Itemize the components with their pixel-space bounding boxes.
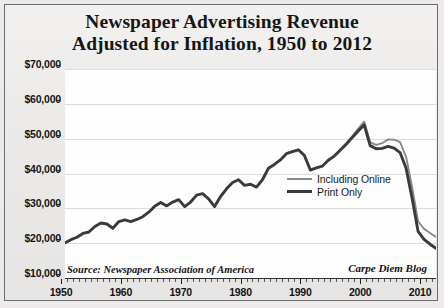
x-tick-minor bbox=[97, 279, 98, 282]
x-tick-minor bbox=[73, 279, 74, 282]
x-tick-minor bbox=[372, 279, 373, 282]
x-tick-minor bbox=[187, 279, 188, 282]
x-tick-minor bbox=[157, 279, 158, 282]
x-tick-minor bbox=[258, 279, 259, 282]
x-tick-minor bbox=[85, 279, 86, 282]
x-tick-minor bbox=[354, 279, 355, 282]
x-tick-minor bbox=[414, 279, 415, 282]
title-line-2: Adjusted for Inflation, 1950 to 2012 bbox=[5, 33, 439, 55]
x-tick-minor bbox=[67, 279, 68, 282]
x-tick-major bbox=[420, 279, 421, 284]
x-tick-major bbox=[181, 279, 182, 284]
page-title: Newspaper Advertising Revenue Adjusted f… bbox=[5, 11, 439, 55]
x-tick-label: 2000 bbox=[337, 286, 383, 298]
x-tick-minor bbox=[318, 279, 319, 282]
x-tick-minor bbox=[175, 279, 176, 282]
credit-note: Carpe Diem Blog bbox=[348, 262, 427, 274]
x-tick-minor bbox=[79, 279, 80, 282]
x-tick-minor bbox=[163, 279, 164, 282]
legend-swatch-print-only bbox=[287, 190, 312, 194]
legend-item-including-online: Including Online bbox=[287, 172, 391, 185]
legend: Including Online Print Only bbox=[287, 172, 391, 198]
title-line-1: Newspaper Advertising Revenue bbox=[5, 11, 439, 33]
legend-swatch-including-online bbox=[287, 178, 312, 180]
x-tick-minor bbox=[324, 279, 325, 282]
x-tick-minor bbox=[127, 279, 128, 282]
legend-label-print-only: Print Only bbox=[317, 186, 362, 198]
x-tick-label: 1950 bbox=[38, 286, 84, 298]
x-tick-minor bbox=[151, 279, 152, 282]
x-tick-minor bbox=[199, 279, 200, 282]
x-tick-major bbox=[61, 279, 62, 284]
y-tick-label: $70,000 bbox=[5, 58, 61, 70]
y-tick-mark bbox=[56, 135, 61, 136]
x-tick-major bbox=[121, 279, 122, 284]
x-tick-major bbox=[300, 279, 301, 284]
x-tick-minor bbox=[235, 279, 236, 282]
x-tick-minor bbox=[336, 279, 337, 282]
x-tick-minor bbox=[217, 279, 218, 282]
x-tick-minor bbox=[205, 279, 206, 282]
x-tick-minor bbox=[270, 279, 271, 282]
x-tick-minor bbox=[408, 279, 409, 282]
y-tick-label: $30,000 bbox=[5, 197, 61, 209]
x-tick-minor bbox=[115, 279, 116, 282]
x-tick-label: 1960 bbox=[98, 286, 144, 298]
x-tick-minor bbox=[402, 279, 403, 282]
x-tick-minor bbox=[91, 279, 92, 282]
x-tick-minor bbox=[229, 279, 230, 282]
x-tick-minor bbox=[342, 279, 343, 282]
x-tick-major bbox=[360, 279, 361, 284]
y-tick-mark bbox=[56, 239, 61, 240]
x-tick-minor bbox=[133, 279, 134, 282]
x-tick-minor bbox=[109, 279, 110, 282]
legend-item-print-only: Print Only bbox=[287, 185, 391, 198]
x-tick-minor bbox=[366, 279, 367, 282]
y-tick-mark bbox=[56, 65, 61, 66]
x-tick-label: 1990 bbox=[277, 286, 323, 298]
x-tick-minor bbox=[378, 279, 379, 282]
y-tick-mark bbox=[56, 100, 61, 101]
x-tick-label: 2010 bbox=[397, 286, 443, 298]
x-tick-minor bbox=[426, 279, 427, 282]
y-tick-mark bbox=[56, 274, 61, 275]
x-tick-minor bbox=[223, 279, 224, 282]
y-tick-label: $40,000 bbox=[5, 163, 61, 175]
x-tick-minor bbox=[169, 279, 170, 282]
y-tick-label: $10,000 bbox=[5, 267, 61, 279]
y-tick-mark bbox=[56, 204, 61, 205]
chart-frame: Newspaper Advertising Revenue Adjusted f… bbox=[4, 4, 438, 301]
y-tick-label: $60,000 bbox=[5, 93, 61, 105]
y-tick-label: $50,000 bbox=[5, 128, 61, 140]
x-tick-label: 1980 bbox=[218, 286, 264, 298]
x-tick-minor bbox=[312, 279, 313, 282]
x-tick-minor bbox=[390, 279, 391, 282]
x-tick-minor bbox=[432, 279, 433, 282]
x-tick-minor bbox=[384, 279, 385, 282]
source-note: Source: Newspaper Association of America bbox=[67, 264, 254, 275]
x-tick-label: 1970 bbox=[158, 286, 204, 298]
x-tick-minor bbox=[348, 279, 349, 282]
x-tick-minor bbox=[306, 279, 307, 282]
x-tick-minor bbox=[276, 279, 277, 282]
y-tick-label: $20,000 bbox=[5, 232, 61, 244]
chart-screenshot: Newspaper Advertising Revenue Adjusted f… bbox=[0, 0, 444, 308]
y-tick-mark bbox=[56, 170, 61, 171]
x-tick-minor bbox=[193, 279, 194, 282]
x-tick-minor bbox=[139, 279, 140, 282]
x-tick-minor bbox=[294, 279, 295, 282]
x-tick-minor bbox=[288, 279, 289, 282]
x-tick-minor bbox=[330, 279, 331, 282]
x-tick-minor bbox=[211, 279, 212, 282]
x-tick-major bbox=[241, 279, 242, 284]
x-tick-minor bbox=[103, 279, 104, 282]
x-tick-minor bbox=[145, 279, 146, 282]
x-tick-minor bbox=[264, 279, 265, 282]
x-tick-minor bbox=[282, 279, 283, 282]
legend-label-including-online: Including Online bbox=[317, 173, 391, 185]
x-tick-minor bbox=[247, 279, 248, 282]
x-tick-minor bbox=[252, 279, 253, 282]
x-tick-minor bbox=[396, 279, 397, 282]
